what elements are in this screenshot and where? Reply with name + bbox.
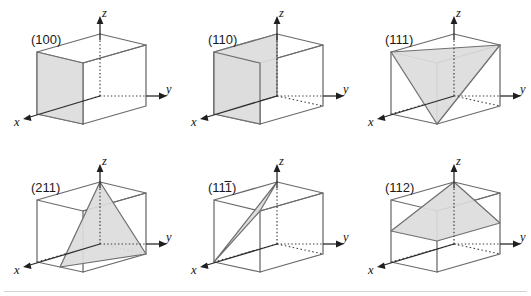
cube-bottom-left-edge [391,114,437,124]
cube-diagram-1bar11: y z x (111) [177,148,354,296]
cube-diagram-100: y z x (100) [0,0,177,148]
x-axis-arrowhead [23,263,32,270]
cube-diagram-111: y z x (111) [354,0,531,148]
x-axis-arrowhead [377,115,386,122]
z-axis-label: z [278,154,284,168]
x-axis [207,244,277,265]
figure-baseline-rule [4,291,527,292]
y-axis-label: y [518,82,526,96]
x-axis-label: x [367,263,374,277]
x-axis-label: x [13,115,20,129]
plane-211 [60,182,146,267]
plane-label-1bar11: (111) [208,180,236,195]
hidden-edge-right [277,244,323,254]
x-axis-arrowhead [200,115,209,122]
y-axis-label: y [341,230,349,244]
panel-112: y z x (112) [354,148,531,296]
x-axis-label: x [367,115,374,129]
y-axis-label: y [341,82,349,96]
y-axis-label: y [164,230,172,244]
plane-label-111: (111) [385,32,413,47]
cube-diagram-112: y z x (112) [354,148,531,296]
plane-label-112: (112) [385,180,414,195]
cube-diagram-110: y z x (110) [177,0,354,148]
plane-label-110: (110) [208,32,237,47]
cube-bottom-left-edge [214,262,260,272]
x-axis-arrowhead [200,263,209,270]
hidden-edge-right [454,96,500,106]
z-axis-label: z [455,154,461,168]
crystal-planes-figure: y z x (100) y z x ( [0,0,531,296]
x-axis-label: x [190,263,197,277]
plane-label-100: (100) [31,32,61,47]
hidden-edge-right [454,244,500,254]
cube-diagram-211: y z x (211) [0,148,177,296]
x-axis-label: x [190,115,197,129]
y-axis-label: y [518,230,526,244]
cube-right-face [260,193,323,272]
cube-bottom-left-edge [391,262,437,272]
x-axis-label: x [13,263,20,277]
panel-100: y z x (100) [0,0,177,148]
panel-1bar11: y z x (111) [177,148,354,296]
cube-right-face [83,45,146,124]
x-axis-arrowhead [377,263,386,270]
plane-label-211: (211) [31,180,60,195]
z-axis-label: z [455,6,461,20]
plane-111 [391,45,500,124]
z-axis-label: z [101,154,107,168]
panel-110: y z x (110) [177,0,354,148]
z-axis-label: z [101,6,107,20]
hidden-edge-right [277,96,323,106]
z-axis-label: z [278,6,284,20]
x-axis [384,244,454,265]
y-axis-label: y [164,82,172,96]
x-axis-arrowhead [23,115,32,122]
panel-211: y z x (211) [0,148,177,296]
panel-111: y z x (111) [354,0,531,148]
